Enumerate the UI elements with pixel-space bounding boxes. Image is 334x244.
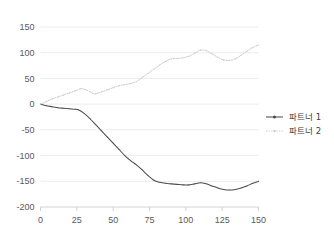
x-tick-label: 100 (178, 215, 193, 225)
series-1-point (188, 184, 189, 185)
series-2-point (240, 55, 241, 56)
series-1-point (75, 109, 76, 110)
series-2-point (57, 96, 58, 97)
series-2-point (130, 83, 131, 84)
series-2-point (188, 56, 189, 57)
series-1-point (194, 183, 195, 184)
series-1-point (252, 183, 253, 184)
series-1-point (84, 113, 85, 114)
x-tick-label: 25 (72, 215, 82, 225)
series-2-point (217, 57, 218, 58)
series-1-point (153, 180, 154, 181)
series-1-point (69, 108, 70, 109)
y-tick-label: 0 (29, 99, 34, 109)
series-1-point (52, 106, 53, 107)
series-1-point (130, 160, 131, 161)
series-1-point (229, 190, 230, 191)
series-1-point (107, 137, 108, 138)
y-tick-label: -150 (16, 176, 34, 186)
legend-swatch-marker-1 (273, 116, 276, 119)
series-2-point (75, 90, 76, 91)
series-2-point (165, 61, 166, 62)
series-1-point (63, 108, 64, 109)
series-2-point (92, 93, 93, 94)
series-1-point (119, 149, 120, 150)
series-2-point (40, 104, 41, 105)
series-2-point (69, 92, 70, 93)
series-2-point (136, 81, 137, 82)
series-1-point (171, 183, 172, 184)
series-2-point (101, 91, 102, 92)
series-2-point (81, 88, 82, 89)
series-1-point (136, 164, 137, 165)
series-2-point (177, 58, 178, 59)
series-1-point (246, 185, 247, 186)
series-2-point (86, 90, 87, 91)
series-1-point (165, 183, 166, 184)
series-2-point (229, 60, 230, 61)
series-1-point (159, 182, 160, 183)
series-1-point (124, 155, 125, 156)
legend-swatch-marker-2 (273, 130, 275, 132)
series-2-point (252, 47, 253, 48)
series-2-point (223, 59, 224, 60)
series-1-point (206, 183, 207, 184)
chart-svg: 150100500-50-100-150-200 025507510012515… (0, 0, 334, 244)
series-2-point (118, 85, 119, 86)
line-chart: 150100500-50-100-150-200 025507510012515… (0, 0, 334, 244)
series-1-point (89, 118, 90, 119)
series-1-point (95, 124, 96, 125)
y-tick-label: -50 (21, 125, 34, 135)
series-2-point (159, 64, 160, 65)
series-2-point (95, 93, 96, 94)
series-1-point (177, 184, 178, 185)
series-1-point (258, 181, 259, 182)
x-tick-label: 75 (144, 215, 154, 225)
series-2-point (211, 53, 212, 54)
series-1-point (200, 182, 201, 183)
series-2-point (52, 98, 53, 99)
series-2-point (194, 53, 195, 54)
legend-label-1: 파트너 1 (289, 112, 321, 122)
series-2-point (63, 94, 64, 95)
y-tick-label: 50 (24, 74, 34, 84)
series-1-point (241, 188, 242, 189)
x-tick-label: 50 (108, 215, 118, 225)
x-tick-label: 125 (215, 215, 230, 225)
series-2-point (246, 51, 247, 52)
series-2-point (46, 101, 47, 102)
x-tick-label: 0 (38, 215, 43, 225)
series-2-point (206, 50, 207, 51)
y-tick-label: -200 (16, 202, 34, 212)
series-1-point (212, 185, 213, 186)
y-tick-label: -100 (16, 151, 34, 161)
series-2-point (124, 84, 125, 85)
series-2-point (147, 73, 148, 74)
series-2-point (153, 69, 154, 70)
series-2-point (182, 57, 183, 58)
y-tick-label: 100 (19, 48, 34, 58)
series-1-point (113, 143, 114, 144)
x-tick-label: 150 (251, 215, 266, 225)
y-tick-label: 150 (19, 22, 34, 32)
series-2-point (258, 44, 259, 45)
series-1-point (46, 105, 47, 106)
series-2-point (113, 87, 114, 88)
legend-label-2: 파트너 2 (289, 126, 321, 136)
series-1-point (101, 130, 102, 131)
series-2-point (200, 50, 201, 51)
series-1-point (78, 109, 79, 110)
series-1-point (235, 189, 236, 190)
series-1-point (142, 170, 143, 171)
series-1-point (148, 175, 149, 176)
series-1-point (223, 189, 224, 190)
series-2-point (235, 58, 236, 59)
series-2-point (142, 77, 143, 78)
series-1-point (217, 188, 218, 189)
series-1-point (182, 184, 183, 185)
series-2-point (107, 89, 108, 90)
series-1-point (57, 107, 58, 108)
series-2-point (171, 58, 172, 59)
